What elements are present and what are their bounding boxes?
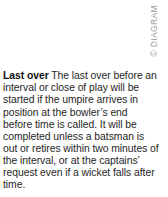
glossary-entry-page: © DIAGRAM Last over The last over before… xyxy=(0,0,168,197)
glossary-definition-text: The last over before an interval or clos… xyxy=(3,70,159,189)
glossary-definition-paragraph: Last over The last over before an interv… xyxy=(3,70,159,190)
copyright-credit-text: © DIAGRAM xyxy=(150,5,159,56)
copyright-credit: © DIAGRAM xyxy=(148,0,168,58)
glossary-term-heading: Last over xyxy=(3,70,49,81)
